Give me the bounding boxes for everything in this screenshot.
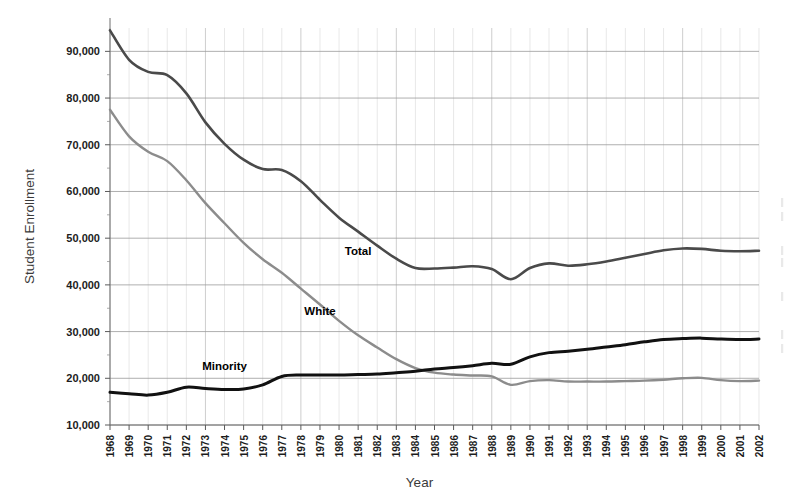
x-tick-label-1970: 1970	[143, 435, 154, 458]
scan-artifact	[781, 344, 783, 353]
y-axis-ticks	[105, 51, 110, 425]
x-axis-title: Year	[406, 475, 434, 490]
x-tick-label-1971: 1971	[162, 435, 173, 458]
x-axis-tick-labels: 1968196919701971197219731974197519761977…	[105, 435, 765, 458]
x-tick-label-1997: 1997	[659, 435, 670, 458]
y-axis-tick-labels: 10,00020,00030,00040,00050,00060,00070,0…	[66, 45, 100, 431]
y-tick-label-50000: 50,000	[66, 232, 100, 244]
series-label-white: White	[304, 305, 335, 317]
scan-artifacts	[781, 198, 783, 353]
series-label-total: Total	[345, 245, 372, 257]
y-tick-label-20000: 20,000	[66, 372, 100, 384]
y-tick-label-70000: 70,000	[66, 139, 100, 151]
x-tick-label-1973: 1973	[200, 435, 211, 458]
x-tick-label-1975: 1975	[239, 435, 250, 458]
x-tick-label-1981: 1981	[353, 435, 364, 458]
x-tick-label-1978: 1978	[296, 435, 307, 458]
x-tick-label-1998: 1998	[678, 435, 689, 458]
y-tick-label-60000: 60,000	[66, 185, 100, 197]
x-tick-label-1974: 1974	[220, 435, 231, 458]
x-tick-label-2001: 2001	[735, 435, 746, 458]
scan-artifact	[781, 198, 783, 207]
x-tick-label-1994: 1994	[601, 435, 612, 458]
x-tick-label-1992: 1992	[563, 435, 574, 458]
chart-container: 10,00020,00030,00040,00050,00060,00070,0…	[0, 0, 806, 502]
x-tick-label-1999: 1999	[697, 435, 708, 458]
x-tick-label-1986: 1986	[449, 435, 460, 458]
x-tick-label-1991: 1991	[544, 435, 555, 458]
x-tick-label-1969: 1969	[124, 435, 135, 458]
x-tick-label-1979: 1979	[315, 435, 326, 458]
scan-artifact	[781, 258, 783, 267]
enrollment-line-chart: 10,00020,00030,00040,00050,00060,00070,0…	[0, 0, 806, 502]
x-tick-label-2002: 2002	[754, 435, 765, 458]
x-tick-label-1993: 1993	[582, 435, 593, 458]
y-axis-title: Student Enrollment	[22, 169, 37, 284]
y-tick-label-80000: 80,000	[66, 92, 100, 104]
y-tick-label-10000: 10,000	[66, 419, 100, 431]
scan-artifact	[781, 212, 783, 221]
x-tick-label-1972: 1972	[181, 435, 192, 458]
scan-artifact	[781, 330, 783, 339]
scan-artifact	[781, 246, 783, 255]
x-tick-label-1985: 1985	[430, 435, 441, 458]
x-tick-label-1980: 1980	[334, 435, 345, 458]
series-inline-labels: TotalWhiteMinority	[202, 245, 371, 373]
series-label-minority: Minority	[202, 360, 247, 372]
x-tick-label-1988: 1988	[487, 435, 498, 458]
x-tick-label-1983: 1983	[391, 435, 402, 458]
x-tick-label-1996: 1996	[639, 435, 650, 458]
y-tick-label-40000: 40,000	[66, 279, 100, 291]
x-tick-label-1989: 1989	[506, 435, 517, 458]
x-tick-label-1982: 1982	[372, 435, 383, 458]
x-tick-label-1976: 1976	[258, 435, 269, 458]
x-axis-ticks	[110, 425, 759, 430]
x-tick-label-1984: 1984	[410, 435, 421, 458]
y-tick-label-30000: 30,000	[66, 326, 100, 338]
scan-artifact	[781, 292, 783, 301]
y-tick-label-90000: 90,000	[66, 45, 100, 57]
x-tick-label-1995: 1995	[620, 435, 631, 458]
x-tick-label-1987: 1987	[468, 435, 479, 458]
x-tick-label-1990: 1990	[525, 435, 536, 458]
x-tick-label-1977: 1977	[277, 435, 288, 458]
x-tick-label-2000: 2000	[716, 435, 727, 458]
x-tick-label-1968: 1968	[105, 435, 116, 458]
